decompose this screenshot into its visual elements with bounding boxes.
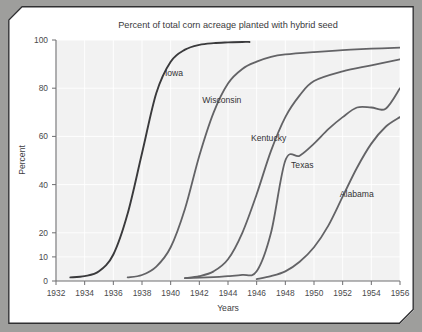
x-tick-label: 1956 <box>391 288 410 298</box>
y-axis-label: Percent <box>17 145 27 175</box>
series-label-alabama: Alabama <box>340 189 374 199</box>
series-label-texas: Texas <box>291 160 313 170</box>
x-tick-label: 1934 <box>75 288 94 298</box>
x-tick-label: 1940 <box>161 288 180 298</box>
y-tick-label: 100 <box>34 35 48 45</box>
y-tick-label: 0 <box>43 276 48 286</box>
y-tick-label: 40 <box>39 180 49 190</box>
x-tick-label: 1942 <box>190 288 209 298</box>
x-tick-label: 1952 <box>333 288 352 298</box>
corn-hybrid-seed-chart: 1932193419361938194019421944194619481950… <box>0 0 422 332</box>
x-tick-label: 1954 <box>362 288 381 298</box>
y-tick-label: 20 <box>39 228 49 238</box>
y-axis-ticks <box>52 40 56 281</box>
x-axis-tick-labels: 1932193419361938194019421944194619481950… <box>47 288 410 298</box>
x-axis-ticks <box>56 281 400 285</box>
series-label-kentucky: Kentucky <box>251 133 287 143</box>
y-tick-label: 60 <box>39 131 49 141</box>
series-label-iowa: Iowa <box>165 68 183 78</box>
y-tick-label: 80 <box>39 83 49 93</box>
x-tick-label: 1944 <box>219 288 238 298</box>
x-tick-label: 1932 <box>47 288 66 298</box>
x-tick-label: 1938 <box>133 288 152 298</box>
x-tick-label: 1948 <box>276 288 295 298</box>
x-axis-label: Years <box>217 303 239 313</box>
x-tick-label: 1946 <box>247 288 266 298</box>
y-axis-tick-labels: 01020406080100 <box>34 35 48 286</box>
screenshot-root: 1932193419361938194019421944194619481950… <box>0 0 422 332</box>
x-tick-label: 1936 <box>104 288 123 298</box>
chart-title: Percent of total corn acreage planted wi… <box>118 20 338 30</box>
series-label-wisconsin: Wisconsin <box>202 95 241 105</box>
y-tick-label: 10 <box>39 252 49 262</box>
x-tick-label: 1950 <box>305 288 324 298</box>
